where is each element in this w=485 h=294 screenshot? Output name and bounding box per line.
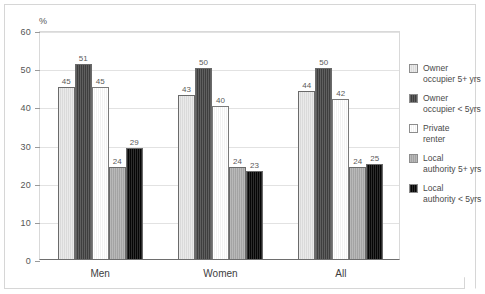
legend-label-line1: Local (423, 183, 481, 194)
y-axis-tick-label: 40 (21, 103, 31, 113)
bar-texture (316, 69, 331, 259)
bar-texture (350, 168, 365, 259)
legend-swatch (409, 154, 418, 163)
bar-value-label: 24 (353, 157, 362, 166)
legend-swatch-texture (410, 125, 417, 132)
legend-label: Owneroccupier 5+ yrs (423, 63, 481, 84)
y-axis-unit-label: % (39, 16, 47, 26)
legend-label-line2: occupier < 5yrs (423, 104, 481, 115)
bar-texture (110, 168, 125, 259)
legend-label-line2: occupier 5+ yrs (423, 74, 481, 85)
legend-swatch-texture (410, 155, 417, 162)
x-axis-category-label: Women (203, 268, 237, 279)
legend-label-line1: Private (423, 123, 449, 134)
y-axis-tick-label: 30 (21, 142, 31, 152)
y-axis-tick-label: 60 (21, 27, 31, 37)
bar-texture (196, 69, 211, 259)
bar-value-label: 42 (336, 89, 345, 98)
legend-swatch-texture (410, 185, 417, 192)
bar: 24 (109, 167, 126, 259)
bar-texture (247, 172, 262, 259)
legend-item[interactable]: Owneroccupier < 5yrs (409, 93, 485, 114)
bar-texture (299, 92, 314, 259)
legend-label-line1: Owner (423, 63, 481, 74)
bar-value-label: 50 (319, 58, 328, 67)
bar: 44 (298, 91, 315, 259)
legend-label-line1: Owner (423, 93, 481, 104)
chart-figure: % 0102030405060 4551452429Men4350402423W… (4, 4, 476, 289)
bar-group: 4350402423Women (160, 32, 280, 259)
plot-area: 0102030405060 4551452429Men4350402423Wom… (39, 31, 400, 260)
bar-texture (230, 168, 245, 259)
legend-label: Privaterenter (423, 123, 449, 144)
legend-swatch-texture (410, 95, 417, 102)
bar-texture (213, 107, 228, 259)
legend-swatch (409, 64, 418, 73)
bar-value-label: 44 (302, 81, 311, 90)
bar-texture (333, 100, 348, 259)
legend-label-line1: Local (423, 153, 481, 164)
bar-value-label: 23 (250, 161, 259, 170)
bar: 45 (92, 87, 109, 259)
bar-value-label: 45 (62, 77, 71, 86)
bar: 45 (58, 87, 75, 259)
bar-texture (367, 165, 382, 259)
legend-label: Owneroccupier < 5yrs (423, 93, 481, 114)
bar-texture (59, 88, 74, 259)
bar-value-label: 40 (216, 96, 225, 105)
bar-value-label: 45 (96, 77, 105, 86)
bar-value-label: 25 (370, 154, 379, 163)
legend-label: Localauthority < 5yrs (423, 183, 481, 204)
bar: 25 (366, 164, 383, 259)
legend-swatch (409, 94, 418, 103)
y-axis-tick-label: 20 (21, 180, 31, 190)
bar-group: 4551452429Men (40, 32, 160, 259)
legend-item[interactable]: Owneroccupier 5+ yrs (409, 63, 485, 84)
chart-legend: Owneroccupier 5+ yrsOwneroccupier < 5yrs… (409, 63, 485, 213)
bar: 50 (315, 68, 332, 259)
y-axis-tick-label: 10 (21, 218, 31, 228)
bar-value-label: 50 (199, 58, 208, 67)
y-axis-tick-label: 50 (21, 65, 31, 75)
legend-swatch (409, 184, 418, 193)
y-axis-tick-label: 0 (26, 256, 31, 266)
bar-value-label: 24 (233, 157, 242, 166)
bar-value-label: 29 (130, 138, 139, 147)
legend-item[interactable]: Privaterenter (409, 123, 485, 144)
bar-value-label: 24 (113, 157, 122, 166)
bar-value-label: 51 (79, 54, 88, 63)
bar: 23 (246, 171, 263, 259)
legend-item[interactable]: Localauthority < 5yrs (409, 183, 485, 204)
bar-texture (127, 149, 142, 259)
bar-texture (179, 96, 194, 259)
legend-item[interactable]: Localauthority 5+ yrs (409, 153, 485, 174)
legend-label: Localauthority 5+ yrs (423, 153, 481, 174)
bar: 24 (349, 167, 366, 259)
bar: 51 (75, 64, 92, 259)
legend-label-line2: authority < 5yrs (423, 194, 481, 205)
bar-texture (93, 88, 108, 259)
bar: 42 (332, 99, 349, 259)
bar: 50 (195, 68, 212, 259)
legend-swatch (409, 124, 418, 133)
legend-label-line2: renter (423, 134, 449, 145)
bar: 43 (178, 95, 195, 259)
bar: 40 (212, 106, 229, 259)
legend-label-line2: authority 5+ yrs (423, 164, 481, 175)
bar-texture (76, 65, 91, 259)
bar-value-label: 43 (182, 85, 191, 94)
bar-group: 4450422425All (281, 32, 401, 259)
x-axis-category-label: All (335, 268, 346, 279)
legend-swatch-texture (410, 65, 417, 72)
x-axis-category-label: Men (90, 268, 109, 279)
bar: 24 (229, 167, 246, 259)
bar: 29 (126, 148, 143, 259)
y-axis-tick (35, 261, 40, 262)
